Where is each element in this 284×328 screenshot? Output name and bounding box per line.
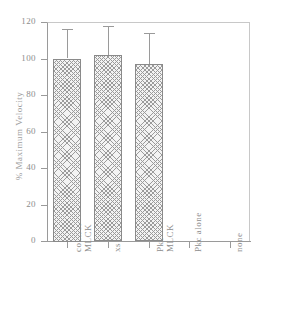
error-bar-cap	[144, 33, 155, 34]
y-tick	[41, 59, 47, 60]
y-tick	[41, 22, 47, 23]
y-tick	[41, 241, 47, 242]
y-tick-label: 120	[0, 17, 36, 26]
y-tick	[41, 205, 47, 206]
error-bar-cap	[62, 29, 73, 30]
x-tick	[230, 242, 231, 248]
error-bar-cap	[103, 26, 114, 27]
error-bar-stem	[108, 26, 109, 55]
bar	[53, 59, 81, 242]
bar	[94, 55, 122, 241]
y-tick-label: 0	[0, 236, 36, 245]
x-tick	[149, 242, 150, 248]
x-tick	[189, 242, 190, 248]
x-category-label: Pkc alone	[193, 132, 203, 252]
y-tick	[41, 95, 47, 96]
x-tick	[108, 242, 109, 248]
bar	[135, 64, 163, 241]
error-bar-stem	[67, 29, 68, 58]
x-category-label: none	[234, 132, 244, 252]
error-bar-stem	[149, 33, 150, 64]
y-tick	[41, 168, 47, 169]
x-tick	[67, 242, 68, 248]
y-axis-title: % Maximum Velocity	[14, 56, 24, 216]
figure: 020406080100120 % Maximum Velocity contr…	[0, 0, 284, 328]
y-tick	[41, 132, 47, 133]
